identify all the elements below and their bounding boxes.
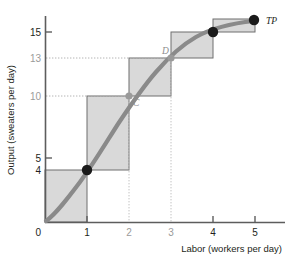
point-f-dot [249, 15, 259, 25]
total-product-chart: 15 13 10 5 4 0 1 2 3 4 5 C D TP Output (… [0, 0, 293, 260]
bar-3-4 [171, 32, 213, 58]
y-tick-label-10: 10 [30, 91, 42, 102]
bar-1-2 [87, 96, 129, 170]
marginal-product-bars [45, 19, 255, 222]
x-tick-label-5: 5 [252, 227, 258, 238]
point-e-dot [208, 27, 218, 37]
y-tick-label-13: 13 [30, 53, 42, 64]
y-tick-label-0: 0 [35, 227, 41, 238]
x-tick-label-1: 1 [84, 227, 90, 238]
x-tick-label-2: 2 [126, 227, 132, 238]
chart-canvas: 15 13 10 5 4 0 1 2 3 4 5 C D TP Output (… [0, 0, 293, 260]
point-a-dot [82, 165, 92, 175]
annotation-d: D [161, 46, 169, 56]
x-tick-label-4: 4 [210, 227, 216, 238]
y-tick-label-15: 15 [30, 27, 42, 38]
x-tick-label-3: 3 [168, 227, 174, 238]
annotation-tp: TP [266, 16, 277, 26]
y-tick-label-4: 4 [35, 165, 41, 176]
annotation-c: C [133, 98, 140, 108]
point-c-dot [125, 92, 132, 99]
y-axis-title: Output (sweaters per day) [5, 65, 16, 175]
x-axis-title: Labor (workers per day) [181, 243, 282, 254]
y-tick-label-5: 5 [35, 153, 41, 164]
